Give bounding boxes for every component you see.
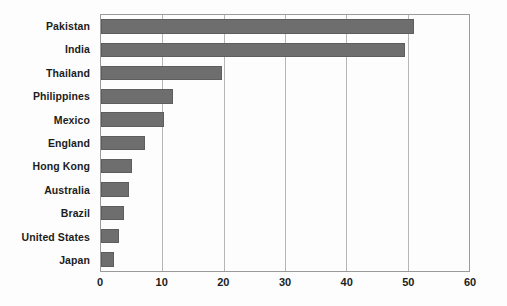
bar-row: [101, 248, 469, 271]
bar: [101, 206, 124, 220]
bar-row: [101, 178, 469, 201]
bar: [101, 66, 222, 80]
category-label: Thailand: [0, 61, 96, 84]
category-axis-labels: Pakistan India Thailand Philippines Mexi…: [0, 14, 96, 272]
bar: [101, 19, 414, 33]
category-label: Mexico: [0, 108, 96, 131]
bar: [101, 89, 173, 103]
bar-chart: Pakistan India Thailand Philippines Mexi…: [0, 0, 507, 306]
category-label: England: [0, 131, 96, 154]
bar-row: [101, 201, 469, 224]
category-label: United States: [0, 225, 96, 248]
value-axis-tick-label: 50: [402, 276, 414, 288]
value-axis-tick-label: 0: [97, 276, 103, 288]
value-axis-tick-label: 60: [464, 276, 476, 288]
category-label: Australia: [0, 178, 96, 201]
value-axis-tick-label: 10: [156, 276, 168, 288]
bar: [101, 159, 132, 173]
bar-row: [101, 224, 469, 247]
category-label: Brazil: [0, 202, 96, 225]
value-axis-tick-label: 20: [217, 276, 229, 288]
bar: [101, 43, 405, 57]
bar-row: [101, 155, 469, 178]
plot-area: [100, 14, 470, 272]
bar-row: [101, 38, 469, 61]
value-axis-tick-label: 30: [279, 276, 291, 288]
value-axis-tick-label: 40: [341, 276, 353, 288]
bar: [101, 229, 119, 243]
value-axis-labels: 0102030405060: [100, 276, 470, 296]
bar: [101, 252, 114, 266]
category-label: Pakistan: [0, 14, 96, 37]
bar: [101, 182, 129, 196]
category-label: India: [0, 37, 96, 60]
bar-row: [101, 85, 469, 108]
category-label: Philippines: [0, 84, 96, 107]
category-label: Japan: [0, 249, 96, 272]
bar: [101, 112, 164, 126]
bar-row: [101, 62, 469, 85]
bar-series: [101, 15, 469, 271]
category-label: Hong Kong: [0, 155, 96, 178]
bar-row: [101, 131, 469, 154]
bar-row: [101, 108, 469, 131]
bar: [101, 136, 145, 150]
bar-row: [101, 15, 469, 38]
